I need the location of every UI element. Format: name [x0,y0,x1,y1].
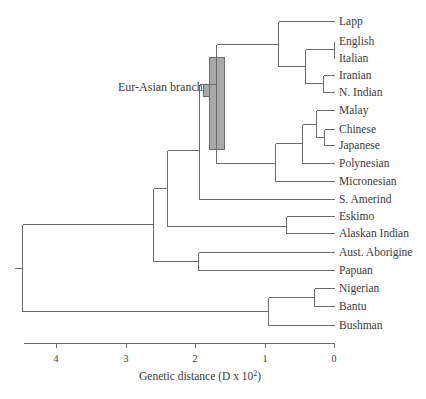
tree-branches [15,85,335,312]
leaf-label-alaskan-indian: Alaskan Indian [339,227,409,239]
cluster-polynesian [276,125,335,164]
x-axis: 4 3 2 1 0 Genetic distance (D x 102) [24,344,337,384]
leaf-label-polynesian: Polynesian [339,157,390,170]
eurasian-branch-label: Eur-Asian branch [118,80,203,94]
cluster-eskimo-alaskan [168,217,335,234]
cluster-nigerian-bantu [315,289,335,307]
tick-label-3: 3 [124,353,129,364]
cluster-aust-papuan [154,253,335,271]
leaf-label-s-amerind: S. Amerind [339,193,392,205]
cluster-asian-pacific [217,144,335,182]
tick-label-2: 2 [193,353,198,364]
tick-label-1: 1 [263,353,268,364]
dendrogram: Eur-Asian branch Lapp English Italian Ir… [0,0,426,399]
leaf-label-iranian: Iranian [339,69,372,81]
cluster-chinese-japanese [317,130,335,146]
leaf-label-lapp: Lapp [339,15,363,28]
leaf-label-bantu: Bantu [339,300,367,312]
x-axis-title-end: ) [257,370,261,383]
leaf-label-nigerian: Nigerian [339,282,379,295]
leaf-labels: Lapp English Italian Iranian N. Indian M… [339,15,412,331]
leaf-label-eskimo: Eskimo [339,210,374,222]
leaf-label-italian: Italian [339,52,369,64]
x-axis-ticks [57,344,335,348]
leaf-label-malay: Malay [339,104,369,117]
cluster-european [217,22,335,67]
tick-label-4: 4 [54,353,59,364]
leaf-label-english: English [339,35,374,48]
cluster-african [269,298,335,326]
leaf-label-n-indian: N. Indian [339,86,383,98]
x-axis-title: Genetic distance (D x 102) [139,369,261,383]
leaf-label-bushman: Bushman [339,319,383,331]
eurasian-highlight [204,58,225,150]
leaf-label-chinese: Chinese [339,123,376,135]
leaf-label-aust-aborigine: Aust. Aborigine [339,246,412,259]
cluster-iranian-nindian [306,76,335,93]
leaf-label-micronesian: Micronesian [339,175,397,187]
root-branch [15,225,23,312]
x-axis-title-main: Genetic distance (D x 10 [139,370,254,383]
leaf-label-papuan: Papuan [339,264,373,277]
cluster-english-italian [306,42,335,84]
cluster-malay [303,111,335,138]
tick-label-0: 0 [332,353,337,364]
leaf-label-japanese: Japanese [339,139,380,152]
